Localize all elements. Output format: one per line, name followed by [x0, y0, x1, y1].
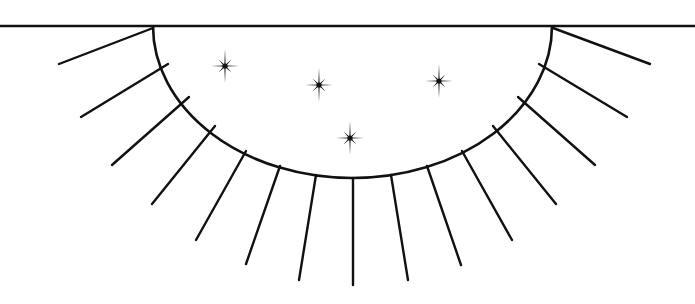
sun-ray	[112, 97, 189, 165]
sun-ray	[518, 97, 595, 165]
sun-ray	[391, 175, 408, 280]
sun-ray	[299, 175, 316, 280]
sun-ray	[553, 28, 650, 64]
sun-ray	[539, 64, 627, 117]
sun-ray	[81, 64, 168, 117]
sun-ray	[152, 126, 215, 204]
stars-group	[211, 49, 453, 155]
sun-ray	[196, 151, 246, 240]
sun-rays	[59, 28, 650, 285]
sun-ray	[427, 166, 461, 265]
star-center-dot	[347, 135, 352, 140]
star-center-dot	[316, 82, 321, 87]
half-sun-diagram	[0, 0, 695, 304]
star-center-dot	[222, 63, 227, 68]
sun-ray	[246, 166, 280, 264]
sun-ray	[59, 28, 153, 64]
star-center-dot	[436, 78, 441, 83]
sun-ray	[462, 151, 512, 240]
half-sun-disc-outline	[153, 26, 552, 178]
sun-ray	[493, 126, 556, 204]
